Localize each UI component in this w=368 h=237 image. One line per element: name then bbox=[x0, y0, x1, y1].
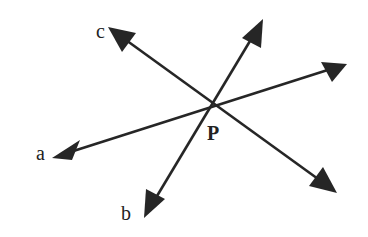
arrowhead-c-icon bbox=[108, 27, 136, 52]
line-a bbox=[52, 62, 347, 160]
line-c bbox=[108, 27, 337, 193]
arrowhead-up-icon bbox=[242, 19, 263, 48]
arrowhead-a-icon bbox=[52, 140, 80, 160]
label-b: b bbox=[121, 202, 131, 224]
line-b bbox=[144, 19, 263, 218]
label-c: c bbox=[96, 20, 105, 42]
lines-layer: c a b P bbox=[0, 0, 368, 237]
label-point-p: P bbox=[207, 122, 219, 144]
arrowhead-down-right-icon bbox=[309, 167, 337, 193]
arrowhead-b-icon bbox=[144, 189, 165, 218]
label-a: a bbox=[36, 142, 45, 164]
